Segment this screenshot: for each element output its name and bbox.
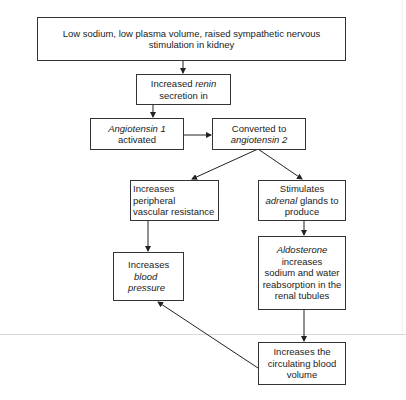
node-angiotensin-2: Converted to angiotensin 2	[212, 118, 306, 150]
node-line: Increased renin	[151, 78, 217, 90]
node-blood-volume: Increases the circulating blood volume	[258, 342, 346, 385]
node-text-italic: adrenal	[266, 195, 298, 206]
node-text: glands to	[297, 195, 338, 206]
node-text: reabsorption in the	[263, 279, 342, 291]
node-text-italic: blood	[128, 271, 157, 283]
node-text-italic: Angiotensin 1	[108, 123, 166, 135]
node-text-italic: angiotensin 2	[231, 134, 288, 146]
node-vascular-resistance: Increases peripheral vascular resistance	[130, 180, 219, 221]
node-text-italic: renin	[195, 78, 216, 89]
node-text: volume	[287, 369, 318, 381]
node-text: Stimulates	[280, 183, 324, 195]
node-text: renal tubules	[275, 290, 329, 302]
node-text: increases	[282, 256, 323, 268]
node-text: produce	[285, 206, 319, 218]
node-text: Increased	[151, 78, 195, 89]
node-text: secretion in	[159, 90, 208, 102]
node-text: vascular resistance	[133, 206, 214, 218]
node-text: activated	[118, 134, 156, 146]
node-text: Low sodium, low plasma volume, raised sy…	[63, 28, 321, 40]
node-text: Converted to	[232, 123, 286, 135]
node-text: peripheral	[133, 195, 175, 207]
node-renin: Increased renin secretion in	[136, 74, 231, 105]
node-text: stimulation in kidney	[149, 39, 235, 51]
node-text: Increases	[128, 259, 169, 271]
node-text: circulating blood	[268, 358, 337, 370]
node-text: sodium and water	[265, 267, 340, 279]
node-text-italic: Aldosterone	[277, 244, 328, 256]
node-text-italic: pressure	[128, 282, 165, 294]
node-blood-pressure: Increases blood pressure	[113, 252, 184, 301]
node-trigger: Low sodium, low plasma volume, raised sy…	[37, 17, 346, 61]
node-text: Increases	[133, 183, 174, 195]
node-line: adrenal glands to	[266, 195, 339, 207]
node-angiotensin-1: Angiotensin 1 activated	[90, 118, 184, 150]
node-adrenal: Stimulates adrenal glands to produce	[258, 180, 346, 221]
node-aldosterone: Aldosterone increases sodium and water r…	[258, 236, 346, 310]
node-text: Increases the	[273, 346, 330, 358]
